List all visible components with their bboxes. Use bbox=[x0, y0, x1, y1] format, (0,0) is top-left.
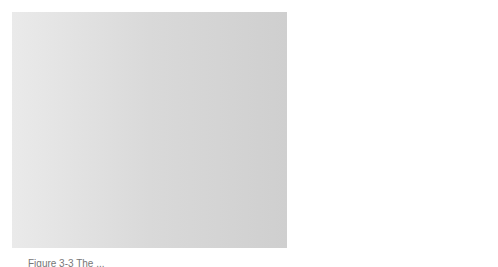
figure-caption: Figure 3-3 The ... bbox=[28, 257, 105, 267]
airfoil-diagram bbox=[0, 0, 498, 267]
figure-bg bbox=[12, 12, 287, 248]
